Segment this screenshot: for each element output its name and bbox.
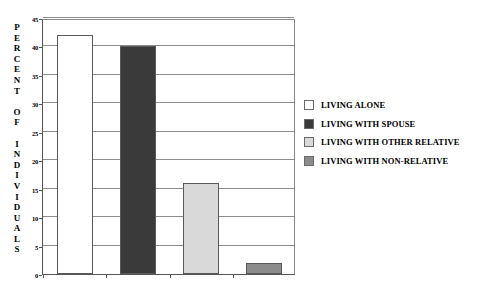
- legend-label: LIVING ALONE: [321, 100, 385, 110]
- y-axis-tick-label: 45: [32, 16, 38, 23]
- legend-label: LIVING WITH SPOUSE: [321, 119, 415, 129]
- legend-item: LIVING WITH SPOUSE: [304, 115, 494, 134]
- bars-group: [43, 20, 294, 274]
- y-axis-tick-label: 25: [32, 129, 38, 136]
- y-axis-tick-label: 35: [32, 72, 38, 79]
- gridline: [43, 17, 294, 18]
- x-axis-tick-mark: [43, 274, 44, 278]
- legend-label: LIVING WITH OTHER RELATIVE: [321, 137, 460, 147]
- x-axis-tick-mark: [106, 274, 107, 278]
- y-axis-tick-label: 30: [32, 101, 38, 108]
- bar: [246, 263, 282, 274]
- legend-item: LIVING ALONE: [304, 96, 494, 115]
- legend-swatch: [304, 119, 314, 129]
- y-axis-tick-mark: [39, 275, 42, 276]
- y-axis-tick-label: 15: [32, 186, 38, 193]
- x-axis-tick-mark: [170, 274, 171, 278]
- y-axis-tick-label: 5: [35, 243, 38, 250]
- legend-swatch: [304, 156, 314, 166]
- legend-swatch: [304, 100, 314, 110]
- legend-swatch: [304, 137, 314, 147]
- legend-item: LIVING WITH NON-RELATIVE: [304, 152, 494, 171]
- legend-item: LIVING WITH OTHER RELATIVE: [304, 133, 494, 152]
- bar-chart-figure: PERCENTOFINDIVIDUALS 051015202530354045 …: [0, 0, 498, 299]
- plot-area: [42, 19, 295, 275]
- bar: [183, 183, 219, 274]
- y-axis-tick-label: 40: [32, 44, 38, 51]
- legend: LIVING ALONELIVING WITH SPOUSELIVING WIT…: [304, 96, 494, 170]
- bar: [120, 46, 156, 274]
- y-axis-ticks: 051015202530354045: [0, 0, 42, 299]
- legend-label: LIVING WITH NON-RELATIVE: [321, 156, 448, 166]
- y-axis-tick-label: 10: [32, 215, 38, 222]
- y-axis-tick-label: 0: [35, 272, 38, 279]
- y-axis-tick-label: 20: [32, 158, 38, 165]
- bar: [57, 35, 93, 274]
- x-axis-tick-mark: [233, 274, 234, 278]
